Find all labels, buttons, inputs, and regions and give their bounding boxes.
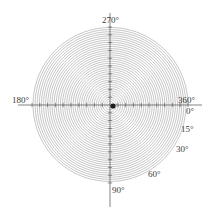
angle-label-90: 90°	[112, 186, 125, 195]
angle-label-0: 0°	[186, 107, 194, 116]
polar-axes	[18, 13, 202, 207]
angle-label-15: 15°	[181, 125, 194, 134]
angle-label-60: 60°	[148, 170, 161, 179]
angle-label-180: 180°	[12, 96, 29, 105]
center-marker	[110, 103, 115, 108]
angle-label-30: 30°	[176, 145, 189, 154]
polar-plot-figure: 270° 360° 0° 15° 30° 60° 90° 180°	[0, 0, 218, 216]
angle-label-270: 270°	[102, 16, 119, 25]
angle-label-360: 360°	[178, 96, 195, 105]
